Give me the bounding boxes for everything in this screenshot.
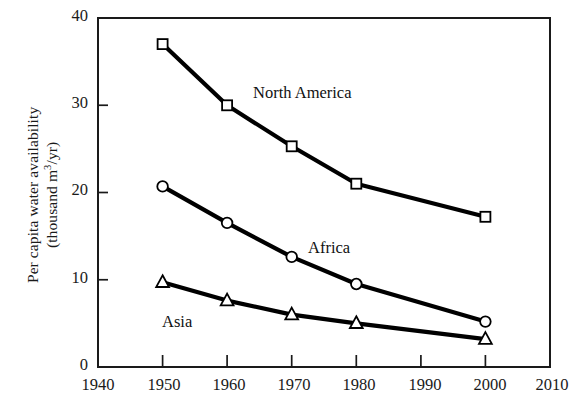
chart-figure: Per capita water availability (thousand … — [0, 0, 582, 416]
data-point-marker — [287, 141, 297, 151]
chart-canvas — [0, 0, 582, 416]
data-point-marker — [351, 279, 362, 290]
data-point-marker — [156, 275, 169, 287]
data-point-marker — [222, 218, 233, 229]
data-point-marker — [480, 212, 490, 222]
series-line-asia — [163, 282, 486, 339]
plot-frame — [98, 18, 550, 367]
series-line-north-america — [163, 44, 486, 217]
data-point-marker — [158, 39, 168, 49]
data-point-marker — [351, 179, 361, 189]
data-point-marker — [480, 316, 491, 327]
data-point-marker — [286, 252, 297, 263]
series-north-america — [158, 39, 491, 222]
data-point-marker — [222, 100, 232, 110]
series-africa — [157, 181, 490, 327]
series-line-africa — [163, 186, 486, 321]
data-point-marker — [157, 181, 168, 192]
y-axis-ticks — [98, 18, 108, 367]
x-axis-ticks — [163, 355, 486, 367]
